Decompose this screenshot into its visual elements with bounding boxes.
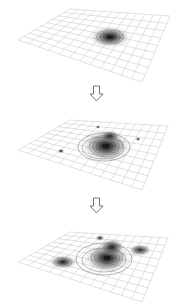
density-blob [128,244,153,257]
down-arrow-icon [90,86,103,101]
density-blob [89,26,132,49]
density-blob [98,238,126,256]
diagram-panel-stage-2 [18,120,168,190]
down-arrow-icon [90,198,103,213]
evolution-diagram [0,0,174,304]
density-blob [135,137,141,142]
diagram-panel-stage-1 [18,9,170,82]
density-blob [48,255,78,270]
density-blob [99,130,122,143]
diagram-panel-stage-3 [18,232,168,302]
density-blob [95,235,105,241]
density-blob [96,125,101,129]
perspective-grid [18,9,170,82]
density-blob [57,149,65,154]
